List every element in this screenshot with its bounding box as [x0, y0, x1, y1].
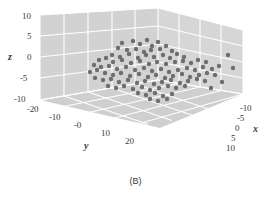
scatter-point: [116, 46, 120, 50]
scatter-point: [196, 58, 200, 62]
scatter-point: [104, 56, 108, 60]
scatter-point: [171, 74, 175, 78]
scatter-point: [149, 48, 153, 52]
scatter-point: [176, 68, 180, 72]
scatter-point: [197, 73, 201, 77]
scatter-point: [125, 48, 129, 52]
scatter-point: [150, 44, 154, 48]
scatter-point: [126, 78, 130, 82]
scatter-point: [157, 86, 161, 90]
scatter-point: [144, 53, 148, 57]
scatter-point: [226, 53, 230, 57]
x-tick-5: 5: [231, 134, 236, 143]
scatter-point: [131, 87, 135, 91]
scatter-point: [174, 86, 178, 90]
figure-caption: (B): [0, 176, 271, 186]
scatter-point: [135, 81, 139, 85]
scatter-point: [180, 72, 184, 76]
scatter-point: [209, 86, 213, 90]
scatter-point: [92, 63, 96, 67]
scatter-point: [122, 84, 126, 88]
scatter-point: [163, 76, 167, 80]
scatter-point: [97, 58, 101, 62]
z-tick-minus5: -5: [20, 74, 27, 83]
scatter-point: [178, 81, 182, 85]
scatter-point: [213, 73, 217, 77]
scatter-point: [159, 67, 163, 71]
scatter-point: [193, 68, 197, 72]
scatter-point: [183, 84, 187, 88]
x-tick-0: 0: [235, 124, 240, 133]
scatter-point: [153, 91, 157, 95]
scatter-point: [120, 58, 124, 62]
y-tick-0: -0: [74, 121, 81, 130]
y-tick-20: 20: [125, 137, 134, 146]
scatter-point: [188, 75, 192, 79]
scatter-point: [120, 41, 124, 45]
scatter-point: [111, 60, 115, 64]
scatter-point: [210, 67, 214, 71]
scatter-point: [133, 68, 137, 72]
scatter-point: [182, 55, 186, 59]
scatter-point: [165, 97, 169, 101]
scatter-point: [155, 60, 159, 64]
scatter-point: [124, 65, 128, 69]
scatter-point: [168, 56, 172, 60]
scatter-point: [158, 47, 162, 51]
scatter-point: [148, 88, 152, 92]
scatter-point: [148, 97, 152, 101]
scatter-point: [138, 59, 142, 63]
scatter-point: [101, 78, 105, 82]
figure-panel-b: 10 5 0 -5 -10 z -20 -10 -0 10 20 y -10 -…: [0, 0, 271, 203]
scatter-point: [166, 84, 170, 88]
scatter-point: [137, 72, 141, 76]
scatter-point: [156, 40, 160, 44]
scatter-point: [147, 62, 151, 66]
scatter-point: [103, 71, 107, 75]
x-tick-10: 10: [226, 144, 235, 153]
x-tick-minus10: -10: [240, 104, 251, 113]
scatter-point: [161, 94, 165, 98]
scatter-point: [138, 42, 142, 46]
scatter-point: [143, 79, 147, 83]
x-tick-minus5: -5: [237, 114, 244, 123]
scatter-point: [131, 39, 135, 43]
scatter-point: [170, 92, 174, 96]
z-axis-label: z: [8, 52, 12, 62]
x-axis-label: x: [253, 124, 258, 134]
scatter-point: [136, 91, 140, 95]
scatter-point: [201, 65, 205, 69]
scatter-point: [115, 67, 119, 71]
scatter-point: [117, 80, 121, 84]
scatter-point: [110, 53, 114, 57]
scatter-point: [189, 61, 193, 65]
scatter-point: [145, 38, 149, 42]
y-tick-minus20: -20: [27, 105, 38, 114]
scatter-point: [170, 49, 174, 53]
scatter-point: [95, 68, 99, 72]
scatter-point: [127, 52, 131, 56]
scatter-point: [107, 64, 111, 68]
scatter-point: [195, 77, 199, 81]
scatter-point: [203, 79, 207, 83]
scatter-point: [220, 80, 224, 84]
y-tick-minus10: -10: [49, 113, 60, 122]
scatter-point: [142, 66, 146, 70]
scatter-point: [111, 73, 115, 77]
scatter-point: [129, 61, 133, 65]
scatter-point: [205, 71, 209, 75]
scatter-point: [150, 69, 154, 73]
scatter-point: [114, 86, 118, 90]
scatter-point: [186, 79, 190, 83]
scatter-point: [181, 59, 185, 63]
scatter-point: [152, 82, 156, 86]
scatter-point: [185, 66, 189, 70]
scatter-point: [160, 80, 164, 84]
scatter-point: [217, 64, 221, 68]
scatter-point: [146, 75, 150, 79]
scatter-point: [164, 62, 168, 66]
scatter-point: [154, 73, 158, 77]
scatter-point: [167, 70, 171, 74]
scatter-point: [128, 74, 132, 78]
scatter-point: [164, 44, 168, 48]
